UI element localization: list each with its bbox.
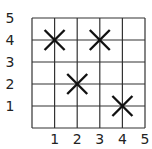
x-tick-label: 1 (50, 131, 59, 147)
scatter-chart: 12345 12345 (0, 0, 152, 149)
y-tick-label: 3 (6, 54, 15, 70)
x-tick-label: 4 (118, 131, 127, 147)
y-tick-label: 5 (6, 10, 15, 26)
x-axis-ticks: 12345 (50, 131, 149, 147)
data-markers (45, 30, 133, 116)
x-tick-label: 2 (73, 131, 82, 147)
y-tick-label: 1 (6, 98, 15, 114)
x-tick-label: 5 (141, 131, 150, 147)
y-axis-ticks: 12345 (6, 10, 15, 114)
y-tick-label: 4 (6, 32, 15, 48)
x-tick-label: 3 (95, 131, 104, 147)
y-tick-label: 2 (6, 76, 15, 92)
